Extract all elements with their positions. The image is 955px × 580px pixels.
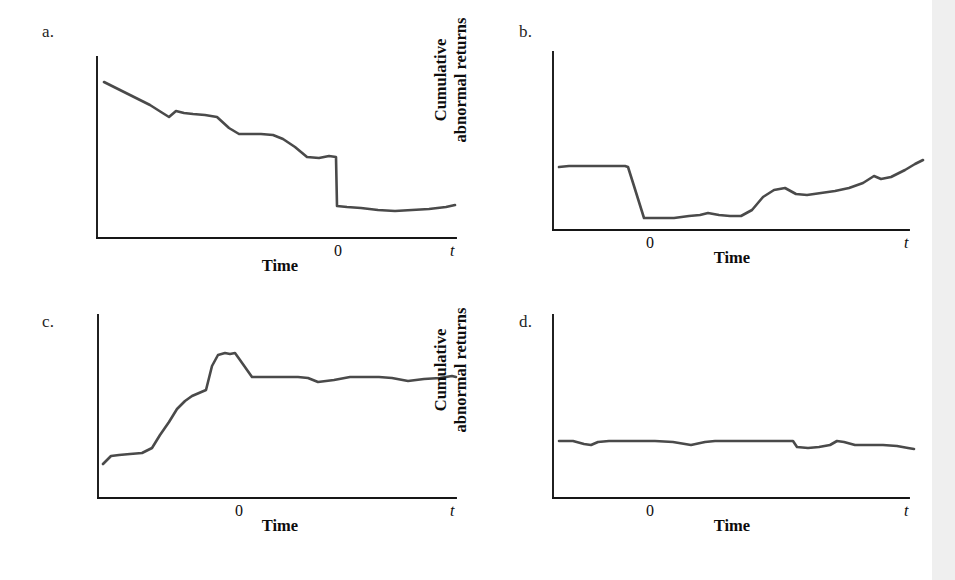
y-axis-label-line1-d: Cumulative <box>431 280 451 460</box>
x-tick-t-b: t <box>904 234 908 252</box>
panel-d: d. Cumulative abnormal returns 0 t Time <box>477 290 955 580</box>
panel-b: b. Cumulative abnormal returns 0 t Time <box>477 0 955 290</box>
plot-area-d <box>477 290 955 580</box>
y-axis-label-line2-b: abnormal returns <box>451 0 471 170</box>
series-line-a <box>104 82 455 211</box>
plot-area-c <box>0 290 478 580</box>
x-tick-t-a: t <box>450 242 454 260</box>
series-line-b <box>559 160 923 218</box>
x-tick-zero-b: 0 <box>646 234 654 252</box>
y-axis-label-b: Cumulative abnormal returns <box>431 0 481 170</box>
series-line-c <box>103 353 456 464</box>
x-axis-label-b: Time <box>682 248 782 268</box>
y-axis-label-d: Cumulative abnormal returns <box>431 280 481 460</box>
series-line-d <box>559 441 914 449</box>
x-tick-zero-d: 0 <box>646 502 654 520</box>
plot-area-b <box>477 0 955 290</box>
panel-c: c. Cumulative abnormal returns 0 t Time <box>0 290 478 580</box>
plot-area-a <box>0 0 478 290</box>
figure-root: a. Cumulative abnormal returns 0 t Time … <box>0 0 955 580</box>
x-axis-label-c: Time <box>230 516 330 536</box>
x-tick-t-d: t <box>904 502 908 520</box>
x-axis-label-a: Time <box>230 256 330 276</box>
panel-a: a. Cumulative abnormal returns 0 t Time <box>0 0 478 290</box>
x-tick-t-c: t <box>450 502 454 520</box>
x-axis-label-d: Time <box>682 516 782 536</box>
y-axis-label-line1-b: Cumulative <box>431 0 451 170</box>
y-axis-label-line2-d: abnormal returns <box>451 280 471 460</box>
x-tick-zero-a: 0 <box>334 242 342 260</box>
